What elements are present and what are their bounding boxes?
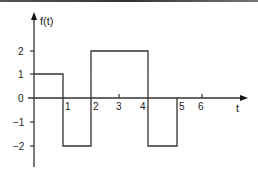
x-tick-label-2: 2 xyxy=(93,101,99,112)
y-axis-arrow-icon xyxy=(31,12,37,20)
y-axis-label: f(t) xyxy=(40,15,53,27)
waveform-chart: f(t) 2 1 0 −1 −2 1 2 3 4 5 6 t xyxy=(0,0,258,172)
x-tick-label-3: 3 xyxy=(116,101,122,112)
x-axis-arrow-icon xyxy=(240,95,248,101)
x-tick-label-4: 4 xyxy=(140,101,146,112)
x-tick-label-1: 1 xyxy=(65,101,71,112)
y-tick-label-0: 0 xyxy=(18,93,24,104)
x-tick-label-5: 5 xyxy=(179,101,185,112)
x-tick-label-6: 6 xyxy=(198,101,204,112)
y-tick-label-neg1: −1 xyxy=(13,117,25,128)
x-axis-label: t xyxy=(236,102,239,114)
y-tick-label-neg2: −2 xyxy=(13,141,25,152)
y-tick-label-1: 1 xyxy=(18,69,24,80)
y-tick-label-2: 2 xyxy=(18,46,24,57)
